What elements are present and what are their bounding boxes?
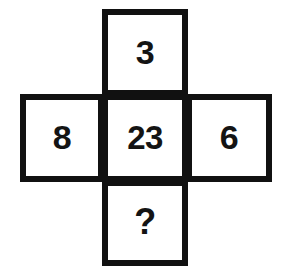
- number-puzzle-figure: 3 8 23 6 ?: [0, 0, 290, 273]
- cell-right-value: 6: [220, 120, 238, 154]
- cell-bottom: ?: [102, 180, 188, 266]
- cell-left-value: 8: [53, 120, 71, 154]
- cell-top: 3: [102, 9, 188, 96]
- cell-bottom-value: ?: [134, 204, 156, 240]
- cell-center-value: 23: [127, 121, 163, 154]
- cell-top-value: 3: [136, 35, 154, 69]
- cell-right: 6: [186, 94, 272, 182]
- cell-left: 8: [20, 94, 104, 182]
- cell-center: 23: [102, 94, 188, 182]
